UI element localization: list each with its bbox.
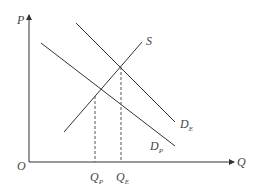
origin-label: O — [17, 159, 26, 173]
x-axis-label: Q — [237, 155, 246, 169]
supply-label: S — [146, 34, 152, 48]
y-axis-label: P — [16, 13, 25, 27]
qe-label: QE — [116, 170, 130, 186]
demand-curve-e — [76, 23, 175, 122]
demand-curve-p — [41, 43, 175, 146]
supply-curve — [64, 42, 142, 132]
demand-e-label: DE — [179, 117, 194, 133]
qp-label: QP — [90, 170, 104, 186]
supply-demand-diagram: P Q O S DE DP QP QE — [0, 0, 260, 194]
demand-p-label: DP — [149, 139, 164, 155]
